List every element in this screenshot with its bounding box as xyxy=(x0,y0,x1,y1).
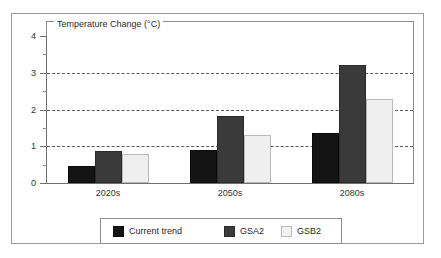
chart-legend: Current trendGSA2GSB2 xyxy=(100,218,342,244)
y-tick-major xyxy=(40,36,47,37)
y-tick-minor xyxy=(43,128,47,129)
legend-swatch-icon xyxy=(224,226,235,237)
legend-entry: Current trend xyxy=(113,225,182,238)
y-tick-minor xyxy=(43,91,47,92)
y-tick-minor xyxy=(43,165,47,166)
x-axis xyxy=(40,183,414,184)
bar xyxy=(339,65,366,183)
bar xyxy=(312,133,339,183)
x-tick-label: 2020s xyxy=(68,188,148,198)
legend-label: GSB2 xyxy=(297,226,321,237)
y-tick-major xyxy=(40,183,47,184)
bar xyxy=(68,166,95,183)
chart-title: Temperature Change (°C) xyxy=(54,19,163,30)
bar xyxy=(190,150,217,183)
x-tick-label: 2050s xyxy=(190,188,270,198)
y-tick-minor xyxy=(43,54,47,55)
legend-swatch-icon xyxy=(113,226,124,237)
legend-label: Current trend xyxy=(129,226,182,237)
bar xyxy=(122,154,149,183)
bar xyxy=(244,135,271,183)
y-tick-major xyxy=(40,146,47,147)
bar xyxy=(366,99,393,183)
y-tick-label: 4 xyxy=(20,32,36,41)
x-tick-label: 2080s xyxy=(312,188,392,198)
bar xyxy=(95,151,122,183)
y-tick-major xyxy=(40,73,47,74)
bar xyxy=(217,116,244,183)
legend-label: GSA2 xyxy=(240,226,264,237)
legend-entry: GSA2 xyxy=(224,225,264,238)
y-tick-label: 0 xyxy=(20,179,36,188)
y-tick-label: 2 xyxy=(20,106,36,115)
y-tick-label: 1 xyxy=(20,142,36,151)
legend-swatch-icon xyxy=(281,226,292,237)
y-tick-label: 3 xyxy=(20,69,36,78)
legend-entry: GSB2 xyxy=(281,225,321,238)
y-tick-major xyxy=(40,110,47,111)
chart-figure: Temperature Change (°C) 01234 2020s2050s… xyxy=(0,0,441,258)
